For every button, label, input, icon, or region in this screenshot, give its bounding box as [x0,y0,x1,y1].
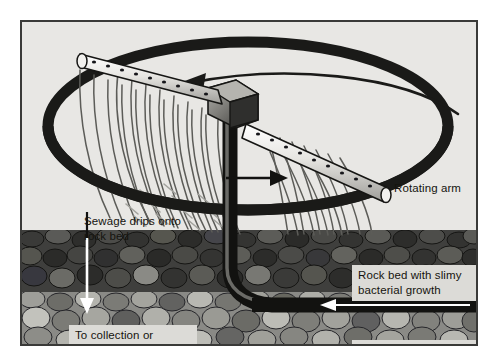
central-hub-block [208,80,258,128]
figure-page: Rotating arm Sewage drips onto rock bed … [0,0,501,364]
label-sewage-pumped-in: Sewage pumped in [352,340,478,346]
label-rotating-arm: Rotating arm [394,181,461,196]
label-sewage-drips-onto-rock-bed: Sewage drips onto rock bed [84,214,181,243]
label-to-collection-or-groundwater: To collection or groundwater [69,325,197,346]
label-rock-bed-with-slimy-bacterial-growth: Rock bed with slimy bacterial growth [352,265,478,301]
diagram-frame: Rotating arm Sewage drips onto rock bed … [20,20,478,346]
